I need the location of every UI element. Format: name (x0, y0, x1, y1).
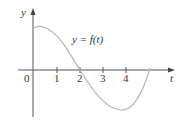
tick-label-3: 3 (100, 72, 106, 84)
tick-label-1: 1 (54, 72, 60, 84)
y-axis-arrow-icon (31, 8, 36, 15)
t-axis-label: t (170, 72, 174, 84)
curve-eq-prefix: y = (71, 33, 90, 45)
y-axis-label: y (20, 6, 26, 18)
function-graph: y t 0 1 2 3 4 y = f(t) (0, 0, 181, 123)
curve-equation-label: y = f(t) (71, 33, 104, 46)
tick-label-4: 4 (123, 72, 129, 84)
tick-label-2: 2 (77, 72, 83, 84)
curve-eq-func: f(t) (90, 33, 104, 46)
tick-label-0: 0 (24, 72, 30, 84)
